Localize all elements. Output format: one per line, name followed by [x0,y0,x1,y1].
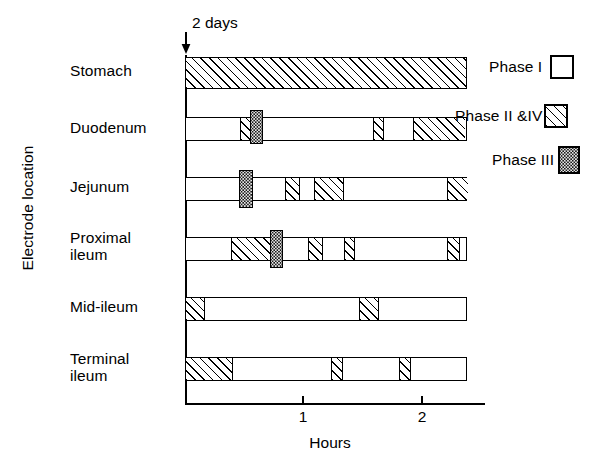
segment-phase2 [359,298,379,320]
row-label-mid-ileum: Mid-ileum [70,298,138,315]
down-arrow-icon [179,32,193,54]
chart-figure: Electrode location Stomach Duodenum Jeju… [0,0,614,461]
segment-phase2 [314,178,344,200]
segment-phase2 [373,118,384,140]
segment-phase2 [285,178,300,200]
segment-phase2 [186,298,205,320]
row-label-stomach: Stomach [70,62,132,79]
bar-jejunum [185,177,467,201]
segment-phase2 [399,358,411,380]
y-axis-title: Electrode location [19,108,37,308]
bar-terminal-ileum [185,357,467,381]
x-tick-label-1: 1 [288,408,318,426]
legend-item-phase2: Phase II &IV [455,104,568,128]
row-label-terminal-ileum: Terminal ileum [70,350,129,384]
segment-phase2 [186,58,466,88]
legend-swatch-phase3-icon [558,146,580,174]
legend-label-phase2: Phase II &IV [455,107,542,125]
segment-phase2 [231,238,271,260]
bar-duodenum [185,117,467,141]
row-label-duodenum: Duodenum [70,119,147,136]
row-label-jejunum: Jejunum [70,178,129,195]
x-tick-1 [302,396,304,403]
legend-label-phase1: Phase I [489,58,542,76]
legend-item-phase3: Phase III [492,146,580,174]
y-axis-line [185,55,187,405]
bar-mid-ileum [185,297,467,321]
x-tick-2 [421,396,423,403]
bar-proximal-ileum [185,237,467,261]
two-days-annotation: 2 days [192,14,238,32]
segment-phase3-duodenum [250,110,263,144]
legend-swatch-phase2-icon [544,104,568,128]
segment-phase2 [308,238,323,260]
row-label-proximal-ileum: Proximal ileum [70,229,131,263]
legend-item-phase1: Phase I [489,55,574,79]
segment-phase2 [447,178,468,200]
segment-phase2 [447,238,460,260]
x-axis-line [185,403,485,405]
segment-phase2 [344,238,355,260]
x-axis-title: Hours [270,434,390,452]
segment-phase2 [331,358,343,380]
segment-phase3-proximal-ileum [270,230,283,268]
bar-stomach [185,57,467,89]
legend-label-phase3: Phase III [492,151,554,169]
segment-phase2 [186,358,233,380]
segment-phase3-jejunum [239,170,253,208]
legend-swatch-phase1-icon [550,55,574,79]
x-tick-label-2: 2 [407,408,437,426]
